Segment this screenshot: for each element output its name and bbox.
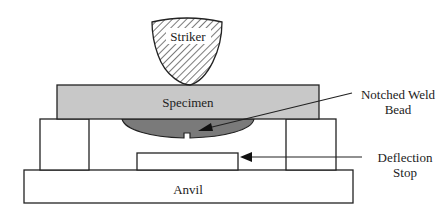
specimen: Specimen bbox=[57, 85, 319, 119]
stop-label-line2: Stop bbox=[393, 165, 417, 180]
weld-impact-test-diagram: Anvil Specimen Striker Notched Weld Bead… bbox=[0, 0, 448, 214]
anvil: Anvil bbox=[24, 170, 353, 203]
right-support bbox=[286, 119, 336, 170]
weld-label-line1: Notched Weld bbox=[361, 87, 436, 102]
specimen-label: Specimen bbox=[162, 95, 214, 110]
striker: Striker bbox=[152, 18, 222, 85]
weld-label-line2: Bead bbox=[385, 102, 412, 117]
striker-label: Striker bbox=[170, 29, 206, 44]
left-support bbox=[40, 119, 89, 170]
anvil-label: Anvil bbox=[173, 182, 203, 197]
deflection-stop bbox=[137, 153, 238, 170]
stop-label-line1: Deflection bbox=[378, 150, 433, 165]
